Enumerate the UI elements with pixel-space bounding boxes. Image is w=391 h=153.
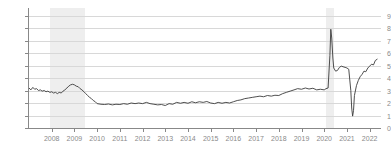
y-tick-mark-9: [25, 16, 28, 17]
line-chart: 0123456789 20082009201020112012201320142…: [0, 0, 391, 153]
x-tick-mark-2013: [165, 128, 166, 132]
series-line-rate: [29, 29, 377, 116]
y-tick-mark-4: [25, 78, 28, 79]
x-tick-label-2018: 2018: [271, 135, 287, 143]
x-tick-label-2013: 2013: [157, 135, 173, 143]
x-tick-label-2009: 2009: [67, 135, 83, 143]
y-tick-label-2: 2: [369, 100, 391, 107]
x-tick-mark-2021: [347, 128, 348, 132]
x-tick-label-2011: 2011: [112, 135, 127, 143]
x-tick-mark-2019: [302, 128, 303, 132]
x-tick-mark-2020: [324, 128, 325, 132]
y-tick-label-4: 4: [369, 75, 391, 82]
x-tick-mark-2015: [211, 128, 212, 132]
plot-area: [29, 8, 381, 128]
y-tick-mark-1: [25, 116, 28, 117]
y-tick-mark-5: [25, 66, 28, 67]
y-tick-label-3: 3: [369, 87, 391, 94]
x-tick-label-2014: 2014: [180, 135, 196, 143]
y-axis-spine: [28, 8, 29, 128]
y-tick-mark-7: [25, 41, 28, 42]
y-tick-label-0: 0: [369, 125, 391, 132]
x-tick-label-2016: 2016: [226, 135, 242, 143]
x-tick-mark-2017: [256, 128, 257, 132]
y-tick-mark-6: [25, 53, 28, 54]
x-tick-mark-2009: [74, 128, 75, 132]
x-tick-label-2008: 2008: [44, 135, 60, 143]
y-tick-mark-8: [25, 28, 28, 29]
series-svg: [29, 8, 381, 128]
x-tick-label-2017: 2017: [248, 135, 264, 143]
x-tick-mark-2014: [188, 128, 189, 132]
y-tick-label-1: 1: [369, 112, 391, 119]
y-tick-label-8: 8: [369, 25, 391, 32]
x-tick-mark-2010: [97, 128, 98, 132]
x-tick-label-2022: 2022: [362, 135, 378, 143]
x-tick-mark-2008: [52, 128, 53, 132]
x-tick-label-2012: 2012: [135, 135, 151, 143]
x-tick-mark-2018: [279, 128, 280, 132]
x-tick-mark-2022: [370, 128, 371, 132]
x-tick-mark-2011: [120, 128, 121, 132]
y-tick-mark-0: [25, 128, 28, 129]
y-tick-label-5: 5: [369, 62, 391, 69]
y-tick-mark-2: [25, 103, 28, 104]
x-axis-spine: [28, 128, 381, 129]
y-tick-label-7: 7: [369, 37, 391, 44]
y-tick-mark-3: [25, 91, 28, 92]
x-tick-label-2020: 2020: [316, 135, 332, 143]
x-tick-label-2010: 2010: [89, 135, 105, 143]
x-tick-label-2021: 2021: [339, 135, 355, 143]
x-tick-mark-2016: [233, 128, 234, 132]
y-tick-label-6: 6: [369, 50, 391, 57]
x-tick-mark-2012: [143, 128, 144, 132]
x-tick-label-2019: 2019: [294, 135, 310, 143]
y-tick-label-9: 9: [369, 12, 391, 19]
x-tick-label-2015: 2015: [203, 135, 219, 143]
